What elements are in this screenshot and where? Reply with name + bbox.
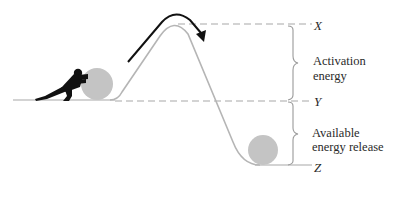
level-x-label: X [313,18,323,33]
release-brace [288,102,298,165]
pushing-man-figure [35,69,88,101]
activation-label-line2: energy [313,69,348,83]
release-label-line2: energy release [312,140,384,154]
level-y-label: Y [314,94,323,109]
activation-brace [288,26,298,100]
level-z-label: Z [314,160,322,175]
energy-curve [110,25,260,165]
release-label-line1: Available [312,126,360,140]
activation-label-line1: Activation [313,54,367,68]
ball-before [81,68,113,100]
activation-energy-diagram: X Y Z Activation energy Available energy… [0,0,406,207]
ball-after [248,135,278,165]
